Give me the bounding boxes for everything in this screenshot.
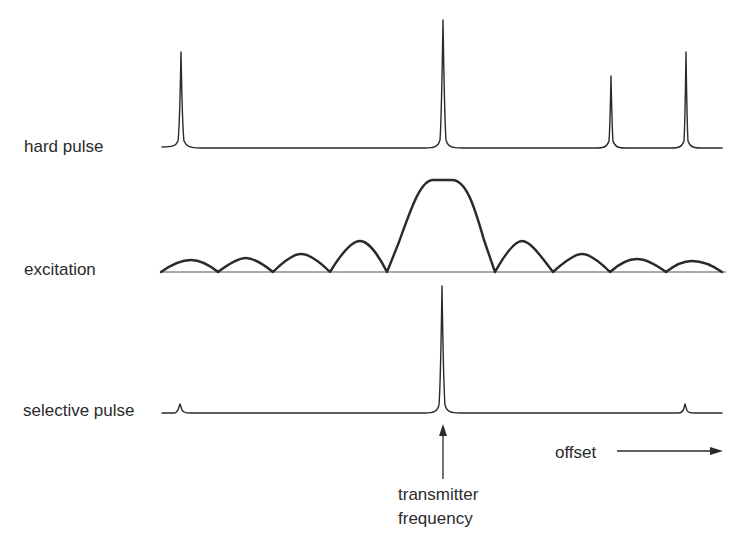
offset-arrow [617, 447, 723, 455]
hard-pulse-trace [162, 20, 722, 148]
hard-pulse-label: hard pulse [24, 138, 103, 155]
diagram-canvas [0, 0, 746, 550]
transmitter-label-line2: frequency [398, 507, 478, 531]
transmitter-label-line1: transmitter [398, 483, 478, 507]
offset-label: offset [555, 444, 596, 461]
selective-pulse-label: selective pulse [23, 402, 135, 419]
transmitter-arrow [439, 424, 447, 479]
excitation-label: excitation [24, 261, 96, 278]
transmitter-frequency-label: transmitter frequency [398, 483, 478, 531]
selective-pulse-trace [162, 286, 722, 413]
excitation-trace [160, 180, 726, 272]
nmr-pulse-diagram: hard pulse excitation selective pulse of… [0, 0, 746, 550]
